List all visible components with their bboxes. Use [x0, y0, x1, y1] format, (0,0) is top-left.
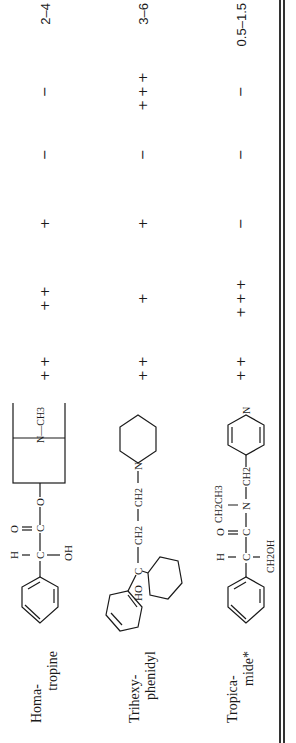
svg-text:H: H [214, 553, 226, 561]
homatropine-structure-icon: H C OH C O O N—CH3 [0, 403, 90, 643]
col-b-value: + [113, 277, 173, 317]
duration-value: 0.5–1.5 [221, 3, 261, 63]
duration-value: 2–4 [25, 3, 65, 63]
table-row-trihexyphenidyl: Trihexy- phenidyl [98, 0, 188, 743]
drug-name-line1: Tropica- [225, 675, 241, 723]
drug-name-line2: phenidyl [143, 645, 159, 700]
structure-tropicamide: H C CH2OH O C N CH2CH3 CH2 N [196, 403, 286, 643]
table-bottom-rule-1 [279, 0, 281, 743]
svg-text:CH2OH: CH2OH [265, 540, 276, 573]
svg-text:HO: HO [132, 585, 144, 601]
svg-text:CH2CH3: CH2CH3 [213, 485, 224, 523]
col-e-value: +++ [113, 70, 173, 110]
svg-text:CH2: CH2 [241, 467, 252, 486]
trihexyphenidyl-structure-icon: HO C CH2 CH2 N [98, 403, 188, 643]
svg-text:OH: OH [62, 545, 74, 561]
col-b-value: ++ [15, 277, 75, 317]
col-d-value: − [211, 133, 271, 173]
svg-text:N: N [240, 502, 252, 510]
svg-text:CH2: CH2 [133, 526, 144, 545]
rotated-table-page: Homa- tropine [0, 0, 296, 743]
drug-name-line2: mide* [241, 645, 257, 686]
col-c-value: + [113, 202, 173, 242]
svg-text:C: C [34, 525, 46, 532]
drug-name-line1: Trihexy- [127, 675, 143, 724]
table-row-homatropine: Homa- tropine [0, 0, 90, 743]
col-d-value: − [15, 133, 75, 173]
duration-value: 3–6 [123, 3, 163, 63]
col-a-value: ++ [113, 347, 173, 387]
table-bottom-rule-2 [283, 0, 285, 743]
svg-text:CH2: CH2 [133, 488, 144, 507]
svg-text:C: C [240, 529, 252, 536]
col-d-value: − [113, 133, 173, 173]
svg-text:O: O [214, 528, 226, 536]
svg-text:C: C [132, 568, 144, 575]
drug-name-line2: tropine [45, 645, 61, 691]
col-a-value: ++ [15, 347, 75, 387]
drug-name-homatropine: Homa- tropine [15, 645, 75, 723]
svg-text:C: C [240, 554, 252, 561]
drug-name-line1: Homa- [29, 684, 45, 723]
col-e-value: − [15, 70, 75, 110]
col-c-value: + [15, 202, 75, 242]
svg-text:N—CH3: N—CH3 [35, 407, 46, 443]
svg-text:N: N [241, 407, 252, 414]
col-e-value: − [211, 70, 271, 110]
col-a-value: ++ [211, 347, 271, 387]
svg-text:O: O [34, 498, 46, 506]
table-row-tropicamide: Tropica- mide* [196, 0, 286, 743]
svg-text:H: H [8, 551, 20, 559]
col-b-value: +++ [211, 277, 271, 317]
col-c-value: − [211, 202, 271, 242]
structure-homatropine: H C OH C O O N—CH3 [0, 403, 90, 643]
drug-name-tropicamide: Tropica- mide* [211, 645, 271, 723]
svg-text:N: N [132, 462, 144, 470]
structure-trihexyphenidyl: HO C CH2 CH2 N [98, 403, 188, 643]
svg-text:C: C [34, 552, 46, 559]
svg-text:O: O [8, 525, 20, 533]
drug-name-trihexyphenidyl: Trihexy- phenidyl [113, 645, 173, 723]
tropicamide-structure-icon: H C CH2OH O C N CH2CH3 CH2 N [196, 403, 286, 643]
